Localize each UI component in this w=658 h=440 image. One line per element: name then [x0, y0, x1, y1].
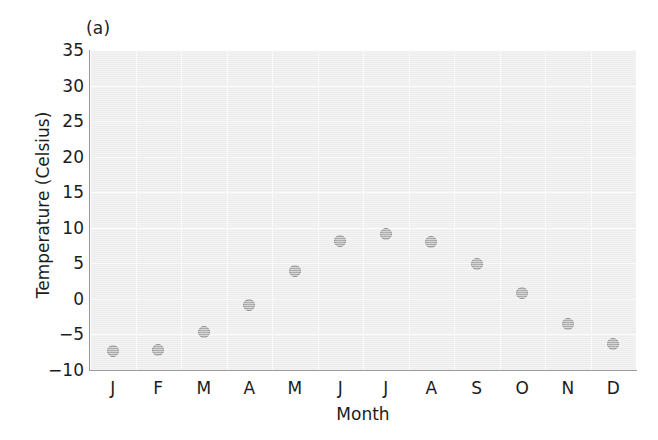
- x-tick-label: M: [275, 378, 315, 398]
- x-tick-label: N: [548, 378, 588, 398]
- data-point-marker: [516, 287, 528, 299]
- gridline-vertical: [227, 50, 228, 370]
- x-tick-label: A: [411, 378, 451, 398]
- y-axis-spine: [89, 50, 90, 371]
- data-point-marker: [289, 265, 301, 277]
- gridline-vertical: [545, 50, 546, 370]
- data-point-marker: [198, 326, 210, 338]
- panel-label: (a): [86, 18, 110, 38]
- data-point-marker: [562, 318, 574, 330]
- gridline-vertical: [591, 50, 592, 370]
- gridline-vertical: [500, 50, 501, 370]
- figure-canvas: (a) 35302520151050−5−10 JFMAMJJASOND Tem…: [0, 0, 658, 440]
- gridline-vertical: [318, 50, 319, 370]
- data-point-marker: [334, 235, 346, 247]
- x-tick-label: J: [320, 378, 360, 398]
- x-tick-label: A: [229, 378, 269, 398]
- x-tick-label: F: [138, 378, 178, 398]
- gridline-vertical: [363, 50, 364, 370]
- x-tick-label: O: [502, 378, 542, 398]
- gridline-vertical: [272, 50, 273, 370]
- y-tick-label: −10: [10, 360, 84, 380]
- data-point-marker: [243, 299, 255, 311]
- x-tick-label: J: [366, 378, 406, 398]
- y-axis-title: Temperature (Celsius): [33, 55, 53, 355]
- x-tick-label: D: [593, 378, 633, 398]
- x-tick-label: J: [93, 378, 133, 398]
- data-point-marker: [607, 338, 619, 350]
- x-axis-spine: [89, 370, 637, 371]
- gridline-vertical: [409, 50, 410, 370]
- data-point-marker: [471, 258, 483, 270]
- gridline-vertical: [454, 50, 455, 370]
- plot-area: [90, 50, 636, 370]
- gridline-vertical: [136, 50, 137, 370]
- data-point-marker: [152, 344, 164, 356]
- data-point-marker: [425, 236, 437, 248]
- gridline-vertical: [90, 50, 91, 370]
- data-point-marker: [107, 345, 119, 357]
- x-tick-label: M: [184, 378, 224, 398]
- data-point-marker: [380, 228, 392, 240]
- gridline-vertical: [181, 50, 182, 370]
- x-axis-title: Month: [90, 404, 636, 424]
- x-tick-label: S: [457, 378, 497, 398]
